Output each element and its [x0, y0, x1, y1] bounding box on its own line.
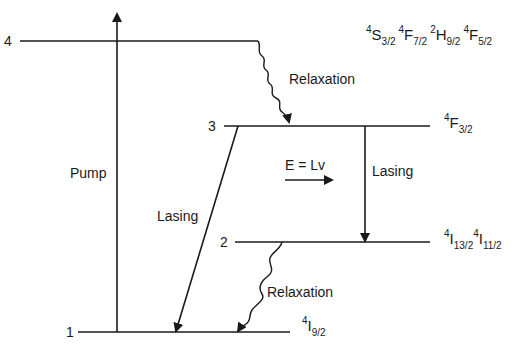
- energy-level-diagram: 4 4S3/24F7/22H9/24F5/2 3 4F3/2 2 4I13/24…: [0, 0, 529, 359]
- lasing-diagonal-label: Lasing: [157, 208, 198, 224]
- relaxation-lower-transition: Relaxation: [238, 242, 333, 331]
- relaxation-upper-label: Relaxation: [289, 71, 355, 87]
- level-2-number: 2: [220, 234, 228, 250]
- lasing-vertical-label: Lasing: [372, 163, 413, 179]
- pump-label: Pump: [70, 165, 107, 181]
- level-3-number: 3: [208, 118, 216, 134]
- relaxation-lower-label: Relaxation: [267, 284, 333, 300]
- lasing-diagonal-transition: Lasing: [157, 126, 238, 331]
- level-2: 2 4I13/24I11/2: [220, 228, 502, 251]
- level-4: 4 4S3/24F7/22H9/24F5/2: [4, 24, 493, 49]
- lasing-vertical-transition: Lasing: [365, 126, 413, 241]
- energy-formula: E = Lv: [285, 157, 325, 173]
- level-2-terms: 4I13/24I11/2: [444, 228, 502, 251]
- level-4-terms: 4S3/24F7/22H9/24F5/2: [366, 24, 493, 47]
- level-3: 3 4F3/2: [208, 112, 473, 135]
- pump-transition: Pump: [70, 14, 117, 332]
- level-1-number: 1: [66, 324, 74, 340]
- energy-annotation: E = Lv: [285, 157, 332, 180]
- lasing-arrow-icon: [176, 126, 238, 331]
- relaxation-upper-transition: Relaxation: [258, 41, 355, 122]
- level-1: 1 4I9/2: [66, 315, 326, 340]
- level-1-term: 4I9/2: [302, 315, 326, 338]
- wavy-arrow-icon: [258, 41, 289, 122]
- level-4-number: 4: [4, 33, 12, 49]
- level-3-term: 4F3/2: [444, 112, 473, 135]
